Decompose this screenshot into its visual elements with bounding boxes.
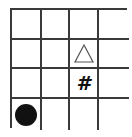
black-circle-icon[interactable] bbox=[15, 104, 37, 126]
cell-r3-c2[interactable] bbox=[70, 99, 99, 130]
cell-r1-c2[interactable] bbox=[70, 40, 99, 69]
cell-r2-c2[interactable]: # bbox=[70, 69, 99, 99]
game-board: # bbox=[10, 8, 127, 128]
cell-r0-c3[interactable] bbox=[99, 10, 129, 40]
cell-r0-c0[interactable] bbox=[12, 10, 42, 40]
cell-r3-c0[interactable] bbox=[12, 99, 42, 130]
cell-r1-c1[interactable] bbox=[42, 40, 70, 69]
cell-r2-c3[interactable] bbox=[99, 69, 129, 99]
triangle-outline-icon[interactable] bbox=[74, 44, 94, 63]
cell-r0-c1[interactable] bbox=[42, 10, 70, 40]
hash-symbol[interactable]: # bbox=[77, 73, 91, 93]
cell-r3-c3[interactable] bbox=[99, 99, 129, 130]
cell-r3-c1[interactable] bbox=[42, 99, 70, 130]
cell-r2-c1[interactable] bbox=[42, 69, 70, 99]
cell-r2-c0[interactable] bbox=[12, 69, 42, 99]
cell-r1-c0[interactable] bbox=[12, 40, 42, 69]
cell-r1-c3[interactable] bbox=[99, 40, 129, 69]
cell-r0-c2[interactable] bbox=[70, 10, 99, 40]
